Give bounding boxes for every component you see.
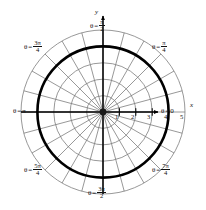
theta-label-0: θ=0	[161, 108, 174, 115]
fraction: 5π4	[33, 163, 42, 177]
radial-tick-1: 1	[115, 113, 118, 120]
theta-label-3pi-4: θ=3π4	[24, 40, 42, 54]
theta-label-7pi-4: θ=7π4	[152, 163, 170, 177]
fraction: 3π2	[97, 186, 106, 200]
denominator: 2	[99, 26, 104, 33]
theta-label-pi-2: θ=π2	[90, 19, 105, 33]
fraction: 7π4	[161, 163, 170, 177]
denominator: 2	[97, 193, 106, 200]
pole-point	[100, 109, 107, 116]
radial-tick-3: 3	[147, 113, 150, 120]
theta-label-5pi-4: θ=5π4	[24, 163, 42, 177]
theta-value: 0	[170, 107, 174, 115]
x-axis-label: x	[190, 101, 193, 109]
denominator: 4	[33, 170, 42, 177]
theta-label-pi-4: θ=π4	[152, 40, 167, 54]
theta-value: π	[22, 107, 26, 115]
y-axis-label: y	[95, 8, 98, 16]
polar-plot-figure: x y 1 2 3 4 5 θ=0 θ=π4 θ=π2 θ=3π4 θ=π θ=…	[0, 0, 206, 210]
denominator: 4	[161, 47, 166, 54]
theta-label-3pi-2: θ=3π2	[88, 186, 106, 200]
fraction: π2	[99, 19, 104, 33]
fraction: 3π4	[33, 40, 42, 54]
denominator: 4	[33, 47, 42, 54]
theta-label-pi: θ=π	[13, 108, 26, 115]
denominator: 4	[161, 170, 170, 177]
radial-tick-2: 2	[131, 113, 134, 120]
radial-tick-5: 5	[180, 113, 183, 120]
fraction: π4	[161, 40, 166, 54]
